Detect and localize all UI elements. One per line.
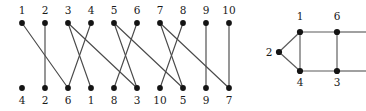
graph-node-bottom	[111, 85, 117, 91]
graph-node-label-bottom: 8	[111, 94, 118, 106]
graph-node-bottom	[42, 85, 48, 91]
right-graph-nodes	[276, 29, 340, 74]
graph-node-label-bottom: 1	[88, 94, 95, 106]
graph-node-label-top: 2	[42, 4, 49, 16]
graph-node-label-bottom: 7	[226, 94, 233, 106]
graph-node-bottom	[134, 85, 140, 91]
graph-node-bottom	[226, 85, 232, 91]
graph-node-label-bottom: 2	[42, 94, 49, 106]
graph-node-bottom	[19, 85, 25, 91]
graph-edge	[279, 52, 300, 71]
right-graph-labels: 21463	[266, 10, 341, 88]
graph-node-label-top: 7	[157, 4, 164, 16]
graph-figure: 1234567891042618310597 21463	[0, 0, 366, 111]
graph-node-label: 2	[266, 46, 273, 58]
left-graph-edges	[22, 23, 229, 88]
graph-node-top	[134, 20, 140, 26]
graph-node-bottom	[157, 85, 163, 91]
graph-node-label: 4	[297, 76, 304, 88]
graph-edge	[160, 23, 229, 88]
graph-node-label-top: 3	[65, 4, 72, 16]
graph-edge	[114, 23, 183, 88]
graph-node	[334, 29, 340, 35]
graph-node-label-top: 8	[180, 4, 187, 16]
graph-node-top	[226, 20, 232, 26]
graph-node	[297, 68, 303, 74]
graph-edge	[68, 23, 137, 88]
graph-node-top	[19, 20, 25, 26]
graph-node-label-top: 1	[19, 4, 26, 16]
graph-edge	[279, 32, 300, 52]
right-graph: 21463	[266, 10, 366, 88]
graph-node-label-top: 5	[111, 4, 118, 16]
graph-node-top	[157, 20, 163, 26]
figure-canvas: 1234567891042618310597 21463	[0, 0, 366, 111]
graph-node	[276, 49, 282, 55]
graph-node-bottom	[180, 85, 186, 91]
graph-node-top	[65, 20, 71, 26]
graph-node-label-bottom: 3	[134, 94, 141, 106]
graph-node-label-bottom: 6	[65, 94, 72, 106]
graph-node-label: 3	[334, 76, 341, 88]
graph-node-label-top: 10	[222, 4, 235, 16]
left-graph: 1234567891042618310597	[19, 4, 236, 106]
graph-node-top	[42, 20, 48, 26]
graph-node-top	[203, 20, 209, 26]
graph-node	[334, 68, 340, 74]
graph-node-label-bottom: 5	[180, 94, 187, 106]
graph-node-label-bottom: 4	[19, 94, 26, 106]
graph-node-label-top: 6	[134, 4, 141, 16]
graph-node-label-top: 4	[88, 4, 95, 16]
graph-node-top	[88, 20, 94, 26]
graph-node-bottom	[203, 85, 209, 91]
graph-node-label-bottom: 9	[203, 94, 210, 106]
graph-node-bottom	[65, 85, 71, 91]
graph-node-label: 6	[334, 10, 341, 22]
graph-node-top	[111, 20, 117, 26]
graph-node-bottom	[88, 85, 94, 91]
graph-node-top	[180, 20, 186, 26]
right-graph-edges	[279, 32, 366, 71]
graph-node-label-top: 9	[203, 4, 210, 16]
graph-node-label: 1	[297, 10, 304, 22]
left-graph-labels: 1234567891042618310597	[19, 4, 236, 106]
graph-node	[297, 29, 303, 35]
graph-node-label-bottom: 10	[153, 94, 166, 106]
